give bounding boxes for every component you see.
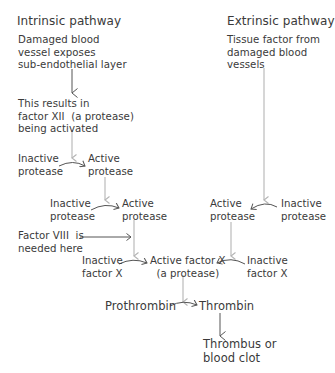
extrinsic-pathway-title: Extrinsic pathway [227, 14, 335, 28]
step2-inactive-protease: Inactive protease [50, 198, 95, 223]
arrow-step2-curve [91, 205, 119, 210]
right-inactive-factor-x: Inactive factor X [247, 255, 288, 280]
active-factor-x: Active factor X (a protease) [150, 255, 226, 280]
left-inactive-factor-x: Inactive factor X [82, 255, 123, 280]
step1-active-protease: Active protease [88, 153, 133, 178]
arrow-left-factor-x-curve [119, 260, 147, 264]
intrinsic-start-text: Damaged blood vessel exposes sub-endothe… [18, 34, 127, 72]
thrombin-label: Thrombin [199, 299, 254, 313]
factor-viii-text: Factor VIII is needed here [18, 230, 84, 255]
factor-xii-text: This results in factor XII (a protease) … [18, 98, 134, 136]
thrombus-result: Thrombus or blood clot [203, 337, 277, 365]
intrinsic-pathway-title: Intrinsic pathway [17, 14, 121, 28]
step2-active-protease: Active protease [122, 198, 167, 223]
step1-inactive-protease: Inactive protease [18, 153, 63, 178]
extrinsic-start-text: Tissue factor from damaged blood vessels [227, 34, 320, 72]
extrinsic-inactive-protease: Inactive protease [281, 198, 326, 223]
prothrombin-label: Prothrombin [105, 299, 176, 313]
extrinsic-active-protease: Active protease [210, 198, 255, 223]
